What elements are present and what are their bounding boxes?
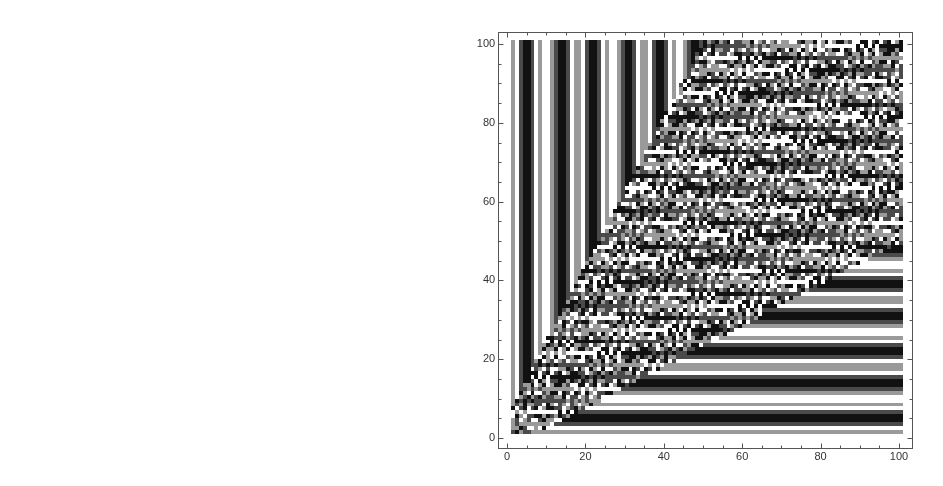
right-plot: 020406080100020406080100: [0, 0, 943, 486]
right-y-tick-label: 80: [469, 117, 495, 128]
right-plot-frame: [498, 32, 913, 449]
right-x-tick-label: 60: [727, 451, 757, 462]
right-y-tick-label: 0: [469, 432, 495, 443]
right-x-tick-label: 80: [806, 451, 836, 462]
right-x-tick-label: 0: [492, 451, 522, 462]
right-x-tick-label: 100: [884, 451, 914, 462]
right-y-tick-label: 60: [469, 196, 495, 207]
right-x-tick-label: 20: [570, 451, 600, 462]
right-y-tick-label: 100: [469, 38, 495, 49]
right-y-tick-label: 40: [469, 274, 495, 285]
right-x-tick-label: 40: [649, 451, 679, 462]
right-y-tick-label: 20: [469, 353, 495, 364]
